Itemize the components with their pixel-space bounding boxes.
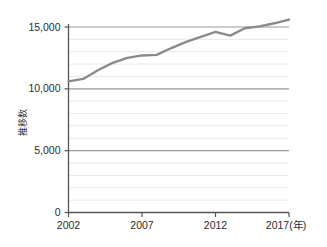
y-tick-label: 0 [55, 206, 61, 218]
x-tick-label: 2007 [130, 219, 154, 231]
chart-canvas: 05,00010,00015,000 2002200720122017(年) 推… [0, 0, 327, 247]
chart-background [0, 0, 327, 247]
y-axis-title: 推移数 [17, 109, 28, 136]
x-tick-label: 2012 [204, 219, 228, 231]
y-tick-label: 15,000 [28, 21, 60, 33]
x-tick-label: 2002 [57, 219, 81, 231]
y-tick-label: 5,000 [34, 144, 60, 156]
line-chart: 05,00010,00015,000 2002200720122017(年) 推… [0, 0, 327, 247]
y-tick-label: 10,000 [28, 82, 60, 94]
x-tick-label: 2017(年) [266, 219, 306, 231]
y-axis-title-text: 推移数 [17, 109, 28, 136]
